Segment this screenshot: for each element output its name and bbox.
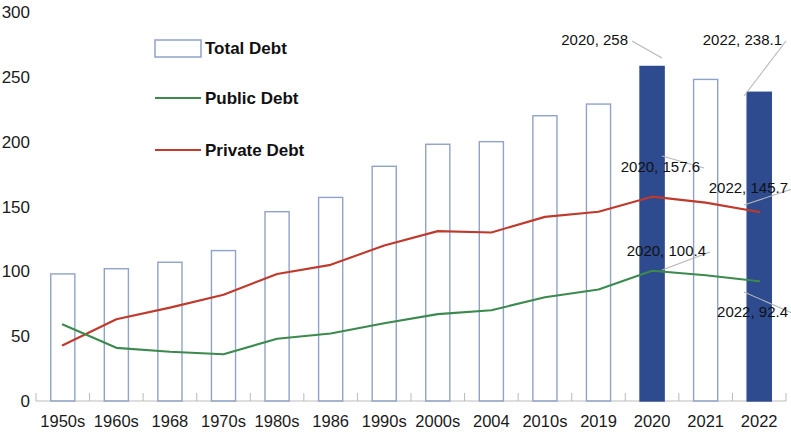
x-axis-category-label: 2022 bbox=[741, 412, 778, 430]
annotation-label: 2020, 100.4 bbox=[627, 242, 706, 259]
annotation-leader-line bbox=[632, 41, 662, 58]
x-axis-category-label: 1980s bbox=[255, 412, 300, 430]
x-axis-category-label: 2020 bbox=[634, 412, 671, 430]
x-axis-category-label: 1990s bbox=[362, 412, 407, 430]
x-axis-category-label: 1986 bbox=[312, 412, 349, 430]
total-debt-bar bbox=[211, 251, 235, 401]
legend-item-label: Total Debt bbox=[205, 39, 287, 58]
y-axis-tick-label: 300 bbox=[2, 3, 30, 22]
x-axis-category-label: 2010s bbox=[522, 412, 567, 430]
annotation-label: 2020, 258 bbox=[561, 31, 628, 48]
total-debt-bar bbox=[51, 274, 75, 401]
legend-item-label: Private Debt bbox=[205, 141, 305, 160]
debt-chart: 050100150200250300 1950s1960s19681970s19… bbox=[0, 0, 791, 434]
total-debt-bar bbox=[479, 142, 503, 401]
y-axis-tick-label: 200 bbox=[2, 133, 30, 152]
y-axis-tick-label: 100 bbox=[2, 262, 30, 281]
x-axis-category-label: 1968 bbox=[152, 412, 189, 430]
total-debt-bar bbox=[586, 104, 610, 401]
legend-marker-total-debt bbox=[155, 40, 201, 57]
y-axis-tick-label: 0 bbox=[21, 392, 30, 411]
x-axis-category-label: 1970s bbox=[201, 412, 246, 430]
x-axis-category-label: 2000s bbox=[415, 412, 460, 430]
y-axis: 050100150200250300 bbox=[2, 3, 30, 411]
x-axis-category-label: 2004 bbox=[473, 412, 510, 430]
total-debt-bar bbox=[265, 212, 289, 401]
total-debt-bar bbox=[372, 166, 396, 401]
chart-legend: Total DebtPublic DebtPrivate Debt bbox=[155, 39, 305, 160]
total-debt-bar bbox=[319, 197, 343, 401]
total-debt-bar bbox=[426, 144, 450, 401]
chart-canvas: 050100150200250300 1950s1960s19681970s19… bbox=[0, 0, 791, 434]
total-debt-bar bbox=[747, 92, 771, 401]
y-axis-tick-label: 250 bbox=[2, 68, 30, 87]
annotation-label: 2022, 92.4 bbox=[717, 303, 788, 320]
y-axis-tick-label: 150 bbox=[2, 198, 30, 217]
total-debt-bar bbox=[104, 269, 128, 401]
annotation-label: 2022, 145.7 bbox=[709, 179, 788, 196]
x-axis: 1950s1960s19681970s1980s19861990s2000s20… bbox=[36, 393, 786, 430]
annotation-label: 2022, 238.1 bbox=[703, 31, 782, 48]
total-debt-bar bbox=[694, 79, 718, 401]
x-axis-category-label: 2019 bbox=[580, 412, 617, 430]
x-axis-category-label: 1960s bbox=[94, 412, 139, 430]
annotation-label: 2020, 157.6 bbox=[621, 158, 700, 175]
total-debt-bar bbox=[533, 116, 557, 401]
x-axis-category-label: 1950s bbox=[40, 412, 85, 430]
legend-item-label: Public Debt bbox=[205, 89, 299, 108]
annotation-leader-line bbox=[744, 41, 786, 96]
total-debt-bar bbox=[640, 66, 664, 401]
y-axis-tick-label: 50 bbox=[11, 327, 30, 346]
total-debt-bar bbox=[158, 262, 182, 401]
x-axis-category-label: 2021 bbox=[687, 412, 724, 430]
